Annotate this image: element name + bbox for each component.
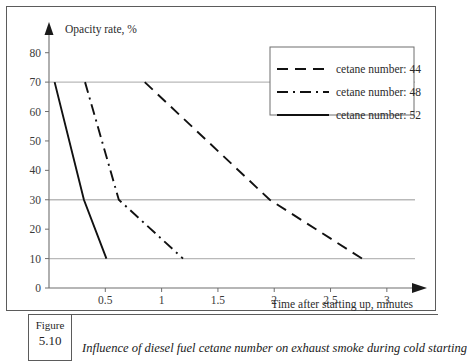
y-tick-label-10: 10 — [30, 253, 42, 265]
y-tick-label-80: 80 — [30, 47, 42, 59]
y-tick-label-0: 0 — [35, 282, 41, 294]
figure-caption-block: Figure 5.10 Influence of diesel fuel cet… — [28, 314, 438, 362]
y-axis-ticks-group: 01020304050607080 — [30, 47, 50, 294]
caption-divider — [72, 314, 438, 315]
legend-label-0: cetane number: 44 — [336, 63, 421, 75]
y-tick-label-30: 30 — [30, 194, 42, 206]
legend-box — [270, 47, 414, 115]
x-tick-label-1.5: 1.5 — [211, 294, 226, 306]
x-tick-label-0.5: 0.5 — [98, 294, 113, 306]
chart-legend: cetane number: 44cetane number: 48cetane… — [270, 47, 421, 121]
x-axis-arrowhead — [412, 283, 427, 293]
figure-number-box: Figure 5.10 — [28, 314, 72, 361]
y-tick-label-40: 40 — [30, 164, 42, 176]
x-axis-title: Time after starting up, minutes — [271, 298, 413, 311]
opacity-rate-line-chart: 01020304050607080 0.511.522.53 Opacity r… — [7, 7, 437, 312]
chart-plot-frame: 01020304050607080 0.511.522.53 Opacity r… — [6, 6, 436, 311]
y-tick-label-50: 50 — [30, 135, 42, 147]
y-axis-arrowhead — [45, 22, 54, 35]
legend-label-2: cetane number: 52 — [336, 109, 421, 121]
series-line-cetane-number-48 — [85, 82, 183, 258]
y-tick-label-60: 60 — [30, 106, 42, 118]
y-tick-label-20: 20 — [30, 223, 42, 235]
y-axis — [45, 22, 54, 288]
figure-number: 5.10 — [29, 332, 71, 349]
figure-caption-text: Influence of diesel fuel cetane number o… — [82, 340, 466, 356]
series-line-cetane-number-52 — [55, 82, 107, 258]
legend-label-1: cetane number: 48 — [336, 86, 421, 98]
y-tick-label-70: 70 — [30, 76, 42, 88]
figure-label-word: Figure — [29, 318, 71, 332]
x-tick-label-1: 1 — [159, 294, 165, 306]
y-axis-title: Opacity rate, % — [65, 23, 137, 36]
